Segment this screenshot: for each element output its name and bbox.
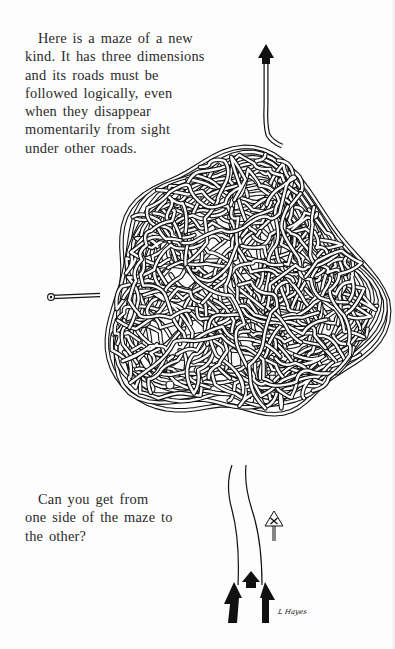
exit-road bbox=[266, 62, 282, 146]
circle-start-marker-icon bbox=[48, 294, 55, 301]
book-page: Here is a maze of a new kind. It has thr… bbox=[0, 0, 395, 649]
start-road bbox=[52, 295, 100, 297]
arrow-up-left-icon bbox=[224, 582, 242, 623]
arrow-up-center-icon bbox=[242, 571, 260, 588]
maze-illustration bbox=[0, 0, 395, 649]
page-gutter-shadow bbox=[391, 0, 395, 649]
arrow-up-right-icon bbox=[260, 582, 275, 623]
artist-signature: L Hayes bbox=[277, 608, 307, 616]
arrow-up-top-icon bbox=[258, 44, 274, 64]
crossroads-warning-sign-icon bbox=[265, 511, 283, 541]
maze-roads bbox=[107, 147, 389, 414]
entry-road bbox=[229, 465, 263, 585]
